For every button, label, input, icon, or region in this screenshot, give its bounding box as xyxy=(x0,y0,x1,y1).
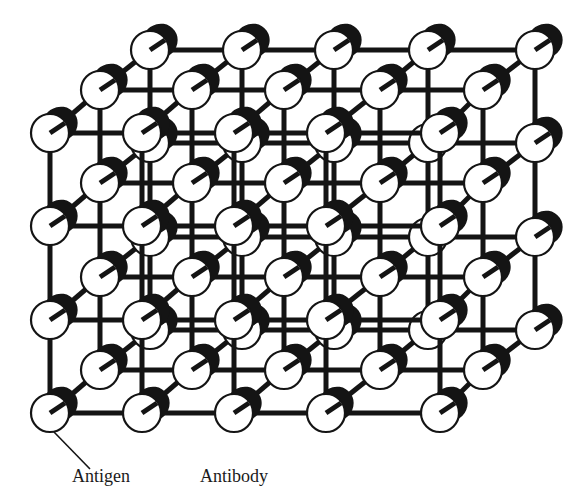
antibody-label: Antibody xyxy=(200,466,268,487)
antigen-label: Antigen xyxy=(72,466,130,487)
antigen-pointer-line xyxy=(54,432,90,469)
antigen-antibody-lattice-diagram xyxy=(0,0,585,496)
